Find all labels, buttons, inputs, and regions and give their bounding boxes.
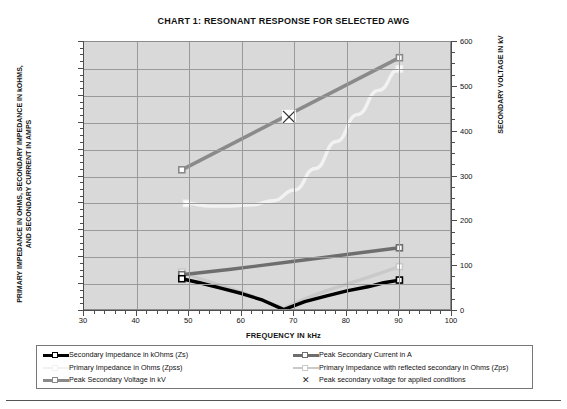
- gridline-horizontal: [84, 257, 450, 258]
- x-axis-minor-tick: [335, 311, 336, 314]
- y-axis-minor-tick-right: [452, 254, 455, 255]
- x-axis-minor-tick: [209, 311, 210, 314]
- y-axis-minor-tick-right: [452, 97, 455, 98]
- y-axis-minor-tick-right: [452, 232, 455, 233]
- y-axis-minor-tick-right: [452, 75, 455, 76]
- chart-title: CHART 1: RESONANT RESPONSE FOR SELECTED …: [0, 16, 567, 26]
- y-axis-tick-left: [78, 149, 83, 150]
- x-axis-minor-tick: [167, 311, 168, 314]
- x-axis-minor-tick: [304, 311, 305, 314]
- plot-inner: [84, 42, 450, 309]
- y-axis-minor-tick-left: [80, 189, 83, 190]
- gridline-horizontal: [84, 69, 450, 70]
- y-axis-minor-tick-left: [80, 209, 83, 210]
- y-axis-tick-left: [78, 202, 83, 203]
- y-axis-minor-tick-left: [80, 88, 83, 89]
- y-axis-label-right: 300: [460, 171, 473, 180]
- y-axis-label-right: 200: [460, 216, 473, 225]
- y-axis-minor-tick-left: [80, 61, 83, 62]
- y-axis-tick-right: [452, 265, 457, 266]
- x-axis-minor-tick: [125, 311, 126, 314]
- x-axis-label: 60: [237, 316, 245, 325]
- series-4: [179, 245, 403, 278]
- y-axis-minor-tick-right: [452, 243, 455, 244]
- y-axis-minor-tick-right: [452, 108, 455, 109]
- gridline-horizontal: [84, 284, 450, 285]
- y-axis-tick-right: [452, 131, 457, 132]
- y-axis-minor-tick-left: [80, 196, 83, 197]
- y-axis-minor-tick-left: [80, 243, 83, 244]
- y-axis-tick-left: [78, 122, 83, 123]
- x-axis-minor-tick: [178, 311, 179, 314]
- legend-item[interactable]: ✕Peak secondary voltage for applied cond…: [293, 374, 531, 387]
- y-axis-minor-tick-right: [452, 198, 455, 199]
- legend-item[interactable]: Peak Secondary Voltage in kV: [43, 374, 293, 387]
- x-axis-label: 40: [131, 316, 139, 325]
- y-axis-minor-tick-left: [80, 128, 83, 129]
- y-axis-minor-tick-left: [80, 290, 83, 291]
- x-axis-label: 70: [289, 316, 297, 325]
- y-axis-minor-tick-right: [452, 276, 455, 277]
- y-axis-minor-tick-right: [452, 63, 455, 64]
- legend-item[interactable]: Secondary Impedance in kOhms (Zs): [43, 349, 293, 362]
- y-axis-minor-tick-left: [80, 48, 83, 49]
- x-axis-minor-tick: [251, 311, 252, 314]
- x-axis-label: 50: [184, 316, 192, 325]
- legend-square-marker: [52, 352, 58, 358]
- y-axis-tick-right: [452, 220, 457, 221]
- legend-column-right: Peak Secondary Current in APrimary Imped…: [293, 349, 531, 387]
- x-axis-minor-tick: [146, 311, 147, 314]
- y-axis-minor-tick-right: [452, 164, 455, 165]
- legend-item[interactable]: Primary Impedance with reflected seconda…: [293, 362, 531, 375]
- y-axis-minor-tick-left: [80, 249, 83, 250]
- x-axis-minor-tick: [377, 311, 378, 314]
- x-axis-minor-tick: [388, 311, 389, 314]
- y-axis-left: [83, 41, 84, 311]
- y-axis-minor-tick-left: [80, 182, 83, 183]
- y-axis-minor-tick-right: [452, 209, 455, 210]
- y-axis-minor-tick-right: [452, 142, 455, 143]
- y-axis-minor-tick-left: [80, 303, 83, 304]
- y-axis-tick-left: [78, 41, 83, 42]
- x-axis: [83, 310, 452, 311]
- y-axis-minor-tick-left: [80, 81, 83, 82]
- gridline-horizontal: [84, 203, 450, 204]
- plot-area: [83, 41, 451, 310]
- x-axis-minor-tick: [430, 311, 431, 314]
- y-axis-tick-left: [78, 229, 83, 230]
- y-axis-minor-tick-right: [452, 187, 455, 188]
- legend-line-marker-icon: [293, 362, 319, 374]
- x-axis-minor-tick: [409, 311, 410, 314]
- gridline-vertical: [294, 42, 295, 309]
- y-axis-tick-right: [452, 176, 457, 177]
- y-axis-minor-tick-left: [80, 223, 83, 224]
- y-axis-minor-tick-left: [80, 216, 83, 217]
- y-axis-minor-tick-right: [452, 119, 455, 120]
- gridline-vertical: [242, 42, 243, 309]
- legend-item-label: Primary Impedance in Ohms (Zpss): [69, 362, 182, 374]
- gridline-horizontal: [84, 150, 450, 151]
- x-axis-minor-tick: [283, 311, 284, 314]
- y-axis-minor-tick-right: [452, 52, 455, 53]
- legend-item[interactable]: Peak Secondary Current in A: [293, 349, 531, 362]
- x-axis-minor-tick: [314, 311, 315, 314]
- y-axis-tick-right: [452, 41, 457, 42]
- y-axis-label-right: 0: [460, 306, 464, 315]
- x-axis-minor-tick: [157, 311, 158, 314]
- y-axis-right-title: SECONDARY VOLTAGE IN kV: [496, 0, 505, 180]
- x-axis-minor-tick: [356, 311, 357, 314]
- legend-item[interactable]: Primary Impedance in Ohms (Zpss): [43, 362, 293, 375]
- gridline-vertical: [137, 42, 138, 309]
- x-axis-minor-tick: [367, 311, 368, 314]
- legend-x-marker-icon: ✕: [293, 374, 319, 386]
- gridline-horizontal: [84, 177, 450, 178]
- footer-divider: [6, 400, 561, 401]
- legend-item-label: Peak Secondary Current in A: [319, 349, 412, 361]
- legend-square-marker: [302, 352, 308, 358]
- gridline-vertical: [399, 42, 400, 309]
- gridline-horizontal: [84, 96, 450, 97]
- legend-item-label: Peak Secondary Voltage in kV: [69, 374, 166, 386]
- x-axis-minor-tick: [440, 311, 441, 314]
- y-axis-minor-tick-right: [452, 299, 455, 300]
- x-axis-minor-tick: [220, 311, 221, 314]
